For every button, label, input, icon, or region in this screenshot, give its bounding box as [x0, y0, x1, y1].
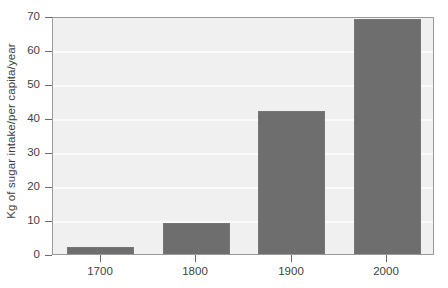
y-tick-label: 10: [0, 215, 40, 227]
y-tick-mark: [45, 153, 52, 154]
y-tick-mark: [45, 17, 52, 18]
x-tick-label: 2000: [356, 266, 416, 278]
x-tick-label: 1900: [261, 266, 321, 278]
x-tick-mark: [386, 255, 387, 262]
y-tick-label: 20: [0, 181, 40, 193]
y-tick-mark: [45, 119, 52, 120]
bar-1900: [258, 111, 325, 254]
y-tick-label: 0: [0, 249, 40, 261]
y-tick-mark: [45, 255, 52, 256]
bars-group: [53, 18, 433, 254]
y-tick-label: 30: [0, 147, 40, 159]
y-tick-label: 40: [0, 113, 40, 125]
y-tick-label: 60: [0, 45, 40, 57]
y-tick-mark: [45, 221, 52, 222]
bar-1700: [67, 247, 134, 254]
x-tick-mark: [195, 255, 196, 262]
bar-chart-figure: Kg of sugar intake/per capita/year 01020…: [0, 0, 448, 288]
x-tick-label: 1700: [70, 266, 130, 278]
x-tick-mark: [100, 255, 101, 262]
y-tick-label: 50: [0, 79, 40, 91]
bar-2000: [354, 19, 421, 254]
y-tick-label: 70: [0, 11, 40, 23]
y-tick-mark: [45, 85, 52, 86]
x-tick-label: 1800: [165, 266, 225, 278]
y-tick-mark: [45, 51, 52, 52]
bar-1800: [163, 223, 230, 254]
plot-area: [52, 17, 434, 255]
x-tick-mark: [291, 255, 292, 262]
y-tick-mark: [45, 187, 52, 188]
